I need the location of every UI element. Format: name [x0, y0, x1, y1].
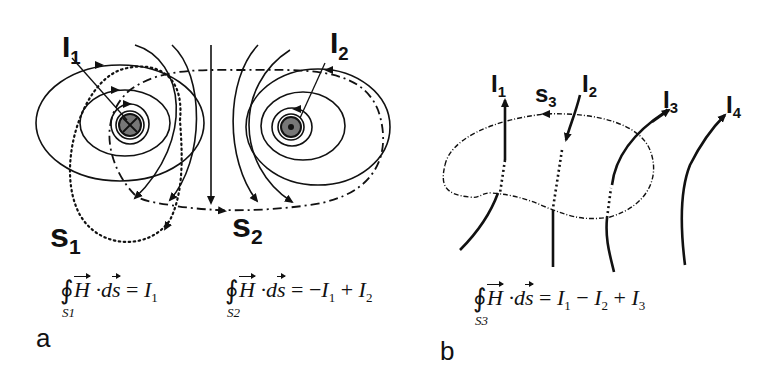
rhs-term: I	[321, 277, 328, 302]
equation-s3: ∮H ·ds = I1 − I2 + I3 S3	[473, 284, 645, 310]
field-lines-i2	[246, 69, 390, 185]
current-i3-line	[607, 110, 669, 272]
rhs-sub: 1	[564, 298, 571, 313]
contour-s3	[443, 114, 653, 219]
vector-s: s	[112, 279, 121, 301]
contour-integral-icon: ∮	[473, 284, 487, 313]
label-sub: 1	[498, 84, 506, 100]
contour-label: S1	[62, 306, 75, 319]
label-i2-panel-b: I2	[582, 72, 597, 100]
label-main: I	[726, 91, 733, 118]
rhs-sub: 1	[151, 290, 158, 305]
differential-d: d	[101, 277, 112, 302]
rhs-term: I	[359, 277, 366, 302]
contour-integral-icon: ∮	[60, 276, 74, 305]
label-main: s	[232, 206, 251, 244]
rhs-term: I	[631, 285, 638, 310]
panel-a-drawing	[36, 45, 390, 242]
contour-s1	[70, 67, 182, 242]
label-sub: 2	[251, 225, 263, 248]
differential-d: d	[266, 277, 277, 302]
label-s3: s3	[535, 82, 557, 110]
panel-b-drawing	[443, 95, 725, 272]
label-s1: s1	[50, 218, 81, 257]
current-i1-line	[460, 100, 505, 250]
equation-s2: ∮H ·ds = −I1 + I2 S2	[225, 276, 372, 302]
label-s2: s2	[232, 208, 263, 247]
label-i2-panel-a: I2	[330, 28, 349, 63]
vector-h: H	[74, 279, 90, 301]
rhs-sub: 2	[601, 298, 608, 313]
ampere-law-diagram	[0, 0, 776, 370]
vector-h: H	[487, 287, 503, 309]
differential-d: d	[514, 285, 525, 310]
equals-sign: =	[126, 277, 138, 302]
label-sub: 4	[733, 105, 741, 121]
rhs-sub: 1	[329, 290, 336, 305]
rhs-sub: 3	[639, 298, 646, 313]
rhs-sign: −	[309, 277, 321, 302]
label-main: I	[491, 70, 498, 97]
label-i1-panel-b: I1	[491, 72, 506, 100]
contour-label: S2	[227, 306, 240, 319]
vector-s: s	[277, 279, 286, 301]
current-i2-line	[553, 95, 580, 267]
vector-h: H	[239, 279, 255, 301]
label-sub: 2	[589, 84, 597, 100]
panel-letter-b: b	[440, 338, 454, 364]
label-sub: 3	[548, 94, 556, 110]
conductor-i1-into-page-icon	[116, 111, 144, 139]
rhs-sign: +	[613, 285, 625, 310]
contour-integral-icon: ∮	[225, 276, 239, 305]
label-sub: 2	[338, 43, 348, 64]
label-sub: 3	[670, 100, 678, 116]
panel-letter-a: a	[36, 325, 50, 351]
label-i4-panel-b: I4	[726, 93, 741, 121]
rhs-sign: +	[341, 277, 353, 302]
label-main: I	[663, 86, 670, 113]
vector-s: s	[525, 287, 534, 309]
rhs-sub: 2	[366, 290, 373, 305]
label-main: s	[535, 80, 548, 107]
current-i4-line	[682, 115, 725, 265]
label-i1-panel-a: I1	[62, 32, 81, 67]
field-lines-middle	[135, 45, 292, 203]
label-sub: 1	[69, 235, 81, 258]
equals-sign: =	[291, 277, 303, 302]
equals-sign: =	[539, 285, 551, 310]
label-i3-panel-b: I3	[663, 88, 678, 116]
label-main: s	[50, 216, 69, 254]
label-main: I	[582, 70, 589, 97]
rhs-sign: −	[576, 285, 588, 310]
contour-label: S3	[475, 314, 488, 327]
label-sub: 1	[70, 47, 80, 68]
equation-s1: ∮H ·ds = I1 S1	[60, 276, 158, 302]
